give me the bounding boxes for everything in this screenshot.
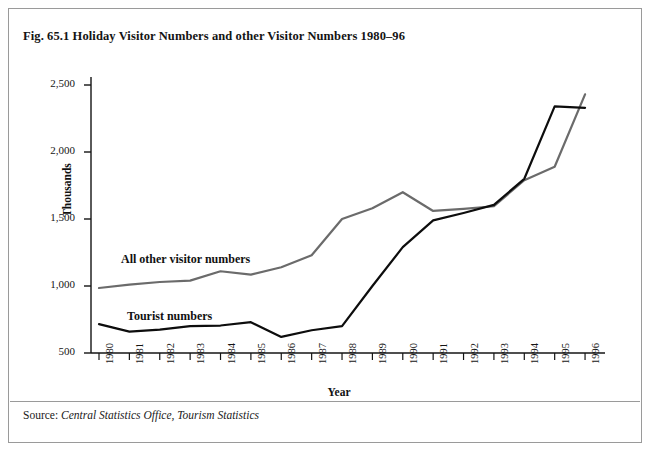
- x-tick-label: 1984: [226, 343, 237, 364]
- y-tick-marks: [84, 85, 91, 353]
- x-tick-label: 1996: [590, 343, 601, 364]
- x-tick-label: 1990: [408, 343, 419, 364]
- x-tick-label: 1991: [438, 343, 449, 364]
- x-tick-label: 1987: [317, 343, 328, 364]
- data-series-group: [99, 94, 585, 337]
- x-tick-label: 1989: [377, 343, 388, 364]
- source-text: Central Statistics Office, Tourism Stati…: [61, 409, 259, 421]
- x-tick-label: 1985: [256, 343, 267, 364]
- figure-frame: Fig. 65.1 Holiday Visitor Numbers and ot…: [8, 8, 642, 443]
- x-axis-title: Year: [209, 386, 469, 398]
- source-note: Source: Central Statistics Office, Touri…: [23, 409, 259, 421]
- source-divider: [10, 401, 640, 402]
- x-tick-label: 1988: [347, 343, 358, 364]
- y-tick-label: 1,000: [27, 278, 75, 290]
- x-tick-label: 1982: [165, 343, 176, 364]
- x-tick-label: 1983: [195, 343, 206, 364]
- x-tick-label: 1995: [560, 343, 571, 364]
- series-label-all-other: All other visitor numbers: [121, 252, 250, 267]
- plot-area: 5001,0001,5002,0002,500 1980198119821983…: [9, 9, 643, 401]
- y-axis-title: Thousands: [61, 130, 73, 250]
- y-tick-label: 2,500: [27, 77, 75, 89]
- series-label-tourist: Tourist numbers: [127, 309, 212, 324]
- x-tick-label: 1980: [104, 343, 115, 364]
- x-tick-label: 1981: [134, 343, 145, 364]
- series-line: [99, 106, 585, 336]
- x-tick-label: 1992: [469, 343, 480, 364]
- x-tick-label: 1993: [499, 343, 510, 364]
- source-label: Source:: [23, 409, 61, 421]
- x-tick-label: 1994: [529, 343, 540, 364]
- x-tick-label: 1986: [286, 343, 297, 364]
- y-tick-label: 500: [27, 345, 75, 357]
